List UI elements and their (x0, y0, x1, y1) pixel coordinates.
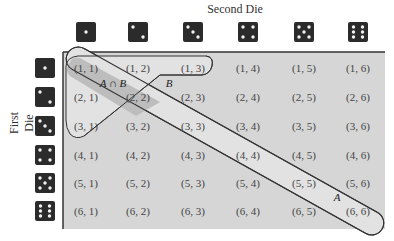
pip-dot (302, 30, 305, 33)
pip-dot (352, 35, 355, 38)
pip-dot (307, 25, 310, 28)
outcome-cell: (6, 5) (292, 205, 316, 218)
outcome-cell: (1, 2) (126, 62, 150, 75)
pip-dot (352, 30, 355, 33)
outcome-cell: (6, 2) (126, 205, 150, 218)
pip-dot (361, 35, 364, 38)
pip-dot (43, 66, 46, 69)
die-2-icon (128, 22, 148, 42)
outcome-cell: (4, 5) (292, 149, 316, 162)
pip-dot (307, 35, 310, 38)
die-3-icon (35, 116, 55, 136)
pip-dot (251, 35, 254, 38)
outcome-cell: (3, 1) (74, 120, 98, 133)
die-1-icon (76, 22, 96, 42)
outcome-cell: (5, 5) (292, 177, 316, 190)
outcome-cell: (5, 6) (346, 177, 370, 190)
outcome-cell: (6, 6) (346, 205, 370, 218)
pip-dot (39, 204, 42, 207)
outcome-cell: (1, 3) (181, 62, 205, 75)
pip-dot (48, 214, 51, 217)
pip-dot (352, 25, 355, 28)
die-4-icon (35, 145, 55, 165)
outcome-cell: (4, 6) (346, 149, 370, 162)
pip-dot (141, 35, 144, 38)
pip-dot (48, 100, 51, 103)
die-5-icon (35, 173, 55, 193)
die-face (35, 201, 55, 221)
outcome-cell: (2, 1) (74, 91, 98, 104)
die-3-icon (183, 22, 203, 42)
outcome-cell: (3, 6) (346, 120, 370, 133)
dice-sample-space-diagram: Second Die First Die (1, 1)(1, 2)(1, 3)(… (0, 0, 394, 241)
pip-dot (186, 25, 189, 28)
outcome-cell: (5, 1) (74, 177, 98, 190)
pip-dot (38, 119, 41, 122)
outcome-cell: (3, 2) (126, 120, 150, 133)
pip-dot (361, 30, 364, 33)
pip-dot (48, 209, 51, 212)
outcome-cell: (4, 1) (74, 149, 98, 162)
event-b-label: B (166, 77, 173, 89)
pip-dot (48, 204, 51, 207)
outcome-cell: (2, 6) (346, 91, 370, 104)
outcome-cell: (5, 2) (126, 177, 150, 190)
outcome-cell: (1, 6) (346, 62, 370, 75)
die-2-icon (35, 87, 55, 107)
pip-dot (48, 158, 51, 161)
die-5-icon (294, 22, 314, 42)
outcome-cell: (3, 3) (181, 120, 205, 133)
die-face (35, 87, 55, 107)
pip-dot (241, 35, 244, 38)
pip-dot (38, 90, 41, 93)
outcome-cell: (5, 3) (181, 177, 205, 190)
outcome-cell: (6, 3) (181, 205, 205, 218)
pip-dot (361, 25, 364, 28)
diagram-canvas: (1, 1)(1, 2)(1, 3)(1, 4)(1, 5)(1, 6)(2, … (0, 0, 394, 241)
pip-dot (196, 35, 199, 38)
pip-dot (241, 25, 244, 28)
pip-dot (297, 25, 300, 28)
outcome-cell: (2, 4) (236, 91, 260, 104)
pip-dot (297, 35, 300, 38)
pip-dot (48, 176, 51, 179)
pip-dot (43, 124, 46, 127)
die-face (35, 145, 55, 165)
outcome-cell: (4, 4) (236, 149, 260, 162)
a-intersect-b-label: A ∩ B (99, 77, 127, 89)
pip-dot (251, 25, 254, 28)
pip-dot (38, 158, 41, 161)
die-6-icon (35, 201, 55, 221)
outcome-cell: (6, 1) (74, 205, 98, 218)
outcome-cell: (6, 4) (236, 205, 260, 218)
pip-dot (48, 129, 51, 132)
event-a-label: A (333, 191, 341, 203)
outcome-cell: (3, 5) (292, 120, 316, 133)
die-face (238, 22, 258, 42)
outcome-cell: (1, 4) (236, 62, 260, 75)
outcome-cell: (4, 2) (126, 149, 150, 162)
pip-dot (84, 30, 87, 33)
outcome-cell: (1, 1) (74, 62, 98, 75)
outcome-cell: (5, 4) (236, 177, 260, 190)
pip-dot (48, 186, 51, 189)
outcome-cell: (3, 4) (236, 120, 260, 133)
die-4-icon (238, 22, 258, 42)
outcome-cell: (2, 5) (292, 91, 316, 104)
die-6-icon (348, 22, 368, 42)
pip-dot (131, 25, 134, 28)
outcome-cell: (4, 3) (181, 149, 205, 162)
second-die-faces (76, 22, 368, 42)
outcome-cell: (1, 5) (292, 62, 316, 75)
pip-dot (39, 214, 42, 217)
die-face (348, 22, 368, 42)
pip-dot (191, 30, 194, 33)
outcome-cell: (2, 3) (181, 91, 205, 104)
pip-dot (43, 181, 46, 184)
pip-dot (38, 176, 41, 179)
outcome-cell: (2, 2) (126, 91, 150, 104)
first-die-faces (35, 58, 55, 221)
die-face (128, 22, 148, 42)
pip-dot (48, 148, 51, 151)
pip-dot (39, 209, 42, 212)
